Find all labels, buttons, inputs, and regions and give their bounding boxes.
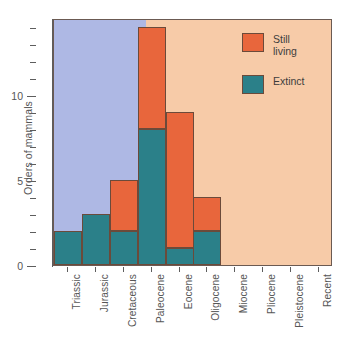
y-axis-tick-major	[27, 96, 36, 97]
bar-eocene	[166, 112, 194, 265]
bar-paleocene	[138, 27, 166, 265]
x-axis-tick	[151, 267, 152, 272]
bar-segment-still-living	[193, 197, 221, 231]
x-axis-tick	[206, 267, 207, 272]
bar-segment-still-living	[110, 180, 138, 231]
bar-jurassic	[82, 214, 110, 265]
bar-segment-extinct	[110, 231, 138, 265]
bar-segment-extinct	[193, 231, 221, 265]
legend-entry-still-living: Still living	[242, 33, 297, 57]
x-axis-tick	[262, 267, 263, 272]
y-axis-tick-minor	[30, 113, 36, 114]
x-axis-tick	[67, 267, 68, 272]
y-axis-tick-minor	[30, 62, 36, 63]
y-axis-tick-minor	[30, 249, 36, 250]
x-axis-tick	[95, 267, 96, 272]
y-axis-tick-major	[27, 181, 36, 182]
bar-cretaceous	[110, 180, 138, 265]
bar-segment-extinct	[82, 214, 110, 265]
x-axis-tick	[123, 267, 124, 272]
x-axis-label-cretaceous: Cretaceous	[127, 274, 138, 327]
y-axis-tick-minor	[30, 232, 36, 233]
x-axis-label-triassic: Triassic	[71, 274, 82, 310]
x-axis-tick	[290, 267, 291, 272]
y-axis-tick-minor	[30, 45, 36, 46]
y-axis-tick-minor	[30, 79, 36, 80]
x-axis-label-oligocene: Oligocene	[210, 274, 221, 321]
legend-label: Extinct	[273, 75, 305, 88]
legend-label: Still living	[273, 33, 297, 57]
y-axis-tick-minor	[30, 198, 36, 199]
y-axis-tick-minor	[30, 215, 36, 216]
bar-segment-still-living	[166, 112, 194, 248]
x-axis-label-recent: Recent	[322, 274, 333, 307]
legend-entry-extinct: Extinct	[242, 75, 305, 94]
y-axis-tick-label: 5	[17, 175, 23, 187]
y-axis-tick-minor	[30, 147, 36, 148]
bar-segment-extinct	[54, 231, 82, 265]
x-axis-tick	[179, 267, 180, 272]
bar-oligocene	[193, 197, 221, 265]
bar-segment-extinct	[138, 129, 166, 265]
bar-segment-still-living	[138, 27, 166, 129]
bar-chart-figure: Orders of mammals 0510 TriassicJurassicC…	[0, 0, 349, 340]
y-axis-tick-minor	[30, 130, 36, 131]
x-axis-label-pleistocene: Pleistocene	[294, 274, 305, 328]
bar-triassic	[54, 231, 82, 265]
x-axis-label-eocene: Eocene	[183, 274, 194, 309]
y-axis-tick-minor	[30, 164, 36, 165]
legend-swatch	[242, 75, 264, 94]
y-axis-tick-minor	[30, 28, 36, 29]
x-axis-label-paleocene: Paleocene	[155, 274, 166, 323]
x-axis-tick	[318, 267, 319, 272]
legend-swatch	[242, 33, 264, 52]
x-axis-label-jurassic: Jurassic	[99, 274, 110, 312]
x-axis-label-miocene: Miocene	[238, 274, 249, 313]
y-axis-tick-label: 10	[11, 90, 23, 102]
bar-segment-extinct	[166, 248, 194, 265]
x-axis-tick	[234, 267, 235, 272]
x-axis: TriassicJurassicCretaceousPaleoceneEocen…	[0, 266, 349, 340]
x-axis-label-pliocene: Pliocene	[266, 274, 277, 314]
